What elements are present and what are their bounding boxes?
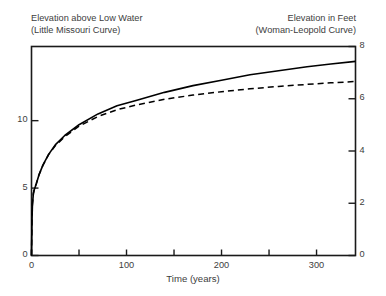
curve-woman-leopold-curve <box>32 82 356 256</box>
curve-little-missouri-curve <box>32 61 356 255</box>
left-axis-title-line1: Elevation above Low Water <box>31 13 143 23</box>
x-axis-ticks <box>32 250 317 256</box>
right-axis-title-line1: Elevation in Feet <box>288 13 356 23</box>
x-axis-label: Time (years) <box>0 273 386 284</box>
x-tick-label-200: 200 <box>202 260 242 270</box>
y-right-tick-label-2: 2 <box>360 197 386 207</box>
left-axis-title-line2: (Little Missouri Curve) <box>31 24 143 36</box>
right-axis-title: Elevation in Feet (Woman-Leopold Curve) <box>256 12 356 37</box>
y-right-tick-label-0: 0 <box>360 249 386 259</box>
plot-canvas <box>0 0 386 296</box>
chart-figure: Elevation above Low Water (Little Missou… <box>0 0 386 296</box>
right-axis-ticks <box>349 47 356 256</box>
left-axis-title: Elevation above Low Water (Little Missou… <box>31 12 143 37</box>
y-left-tick-label-10: 10 <box>0 114 28 124</box>
x-tick-label-100: 100 <box>107 260 147 270</box>
x-tick-label-0: 0 <box>12 260 52 270</box>
x-tick-label-300: 300 <box>297 260 337 270</box>
right-axis-title-line2: (Woman-Leopold Curve) <box>256 24 356 36</box>
axis-frame <box>32 47 356 256</box>
y-right-tick-label-4: 4 <box>360 145 386 155</box>
y-left-tick-label-5: 5 <box>0 182 28 192</box>
data-curves <box>32 61 356 255</box>
y-right-tick-label-6: 6 <box>360 92 386 102</box>
y-right-tick-label-8: 8 <box>360 40 386 50</box>
y-left-tick-label-0: 0 <box>0 249 28 259</box>
